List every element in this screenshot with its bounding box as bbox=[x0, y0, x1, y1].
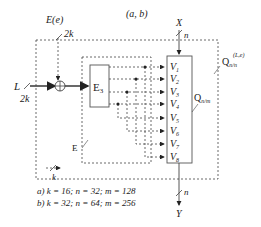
e-input-label: E(e) bbox=[45, 14, 64, 26]
y-width-label: n bbox=[184, 187, 189, 197]
e-width-label: 2k bbox=[64, 28, 74, 39]
config-a: a) k = 16; n = 32; m = 128 bbox=[37, 186, 136, 196]
diagram-canvas: (a, b) E(e) 2k L 2k X n Y n E3 V1 V2 V3 … bbox=[0, 0, 261, 227]
x-width-label: n bbox=[184, 30, 189, 40]
junction-dots bbox=[116, 65, 146, 105]
l-input-label: L bbox=[13, 80, 20, 92]
qnm-label: Qn/m bbox=[194, 92, 211, 104]
l-width-label: 2k bbox=[20, 93, 30, 104]
k-bus-label: k bbox=[52, 172, 57, 182]
qnn-superscript: (L,e) bbox=[233, 52, 245, 59]
config-b: b) k = 32; n = 64; m = 256 bbox=[37, 198, 136, 208]
y-output-label: Y bbox=[176, 208, 183, 219]
title-label: (a, b) bbox=[126, 8, 148, 20]
x-input-label: X bbox=[175, 17, 183, 28]
l-bus-slash bbox=[24, 83, 30, 89]
e-group-label: E bbox=[72, 143, 78, 153]
